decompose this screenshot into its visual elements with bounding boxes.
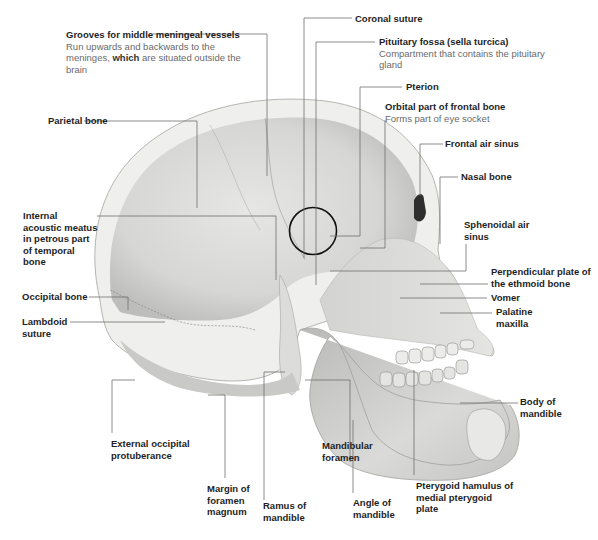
label-title: Pituitary fossa (sella turcica)	[379, 36, 554, 48]
label-title: Nasal bone	[461, 171, 512, 183]
label-title: Ramus of mandible	[263, 500, 318, 523]
label-pterion: Pterion	[406, 81, 439, 93]
skull-diagram: Grooves for middle meningeal vessels Run…	[0, 0, 598, 540]
label-title: Vomer	[491, 292, 520, 304]
label-title: External occipital protuberance	[111, 438, 201, 461]
label-parietal-bone: Parietal bone	[48, 115, 108, 127]
label-body-of-mandible: Body of mandible	[520, 396, 575, 419]
label-title: Internal acoustic meatus in petrous part…	[23, 210, 98, 268]
label-palatine-maxilla: Palatine maxilla	[496, 306, 551, 329]
label-title: Perpendicular plate of the ethmoid bone	[491, 266, 598, 289]
label-title: Occipital bone	[22, 291, 87, 303]
label-title: Pterion	[406, 81, 439, 93]
label-orbital-part-frontal-bone: Orbital part of frontal bone Forms part …	[385, 101, 555, 124]
label-title: Orbital part of frontal bone	[385, 101, 555, 113]
label-perpendicular-plate-ethmoid: Perpendicular plate of the ethmoid bone	[491, 266, 598, 289]
label-title: Parietal bone	[48, 115, 108, 127]
label-description: Run upwards and backwards to the meninge…	[66, 41, 256, 76]
label-title: Pterygoid hamulus of medial pterygoid pl…	[416, 480, 516, 515]
label-title: Lambdoid suture	[22, 316, 70, 339]
label-title: Body of mandible	[520, 396, 575, 419]
label-description: Compartment that contains the pituitary …	[379, 48, 554, 71]
label-internal-acoustic-meatus: Internal acoustic meatus in petrous part…	[23, 210, 98, 268]
label-title: Grooves for middle meningeal vessels	[66, 29, 256, 41]
label-description: Forms part of eye socket	[385, 113, 555, 125]
label-angle-of-mandible: Angle of mandible	[353, 497, 408, 520]
label-occipital-bone: Occipital bone	[22, 291, 87, 303]
label-title: Mandibular foramen	[322, 440, 397, 463]
label-title: Coronal suture	[355, 13, 423, 25]
label-title: Sphenoidal air sinus	[464, 219, 534, 242]
label-pituitary-fossa: Pituitary fossa (sella turcica) Compartm…	[379, 36, 554, 71]
label-title: Frontal air sinus	[445, 138, 519, 150]
label-title: Margin of foramen magnum	[207, 483, 259, 518]
label-external-occipital-protuberance: External occipital protuberance	[111, 438, 201, 461]
label-ramus-of-mandible: Ramus of mandible	[263, 500, 318, 523]
label-vomer: Vomer	[491, 292, 520, 304]
label-title: Palatine maxilla	[496, 306, 551, 329]
label-coronal-suture: Coronal suture	[355, 13, 423, 25]
label-nasal-bone: Nasal bone	[461, 171, 512, 183]
label-title: Angle of mandible	[353, 497, 408, 520]
label-pterygoid-hamulus: Pterygoid hamulus of medial pterygoid pl…	[416, 480, 516, 515]
label-margin-foramen-magnum: Margin of foramen magnum	[207, 483, 259, 518]
label-frontal-air-sinus: Frontal air sinus	[445, 138, 519, 150]
label-lambdoid-suture: Lambdoid suture	[22, 316, 70, 339]
label-mandibular-foramen: Mandibular foramen	[322, 440, 397, 463]
label-sphenoidal-air-sinus: Sphenoidal air sinus	[464, 219, 534, 242]
label-grooves-middle-meningeal: Grooves for middle meningeal vessels Run…	[66, 29, 256, 75]
